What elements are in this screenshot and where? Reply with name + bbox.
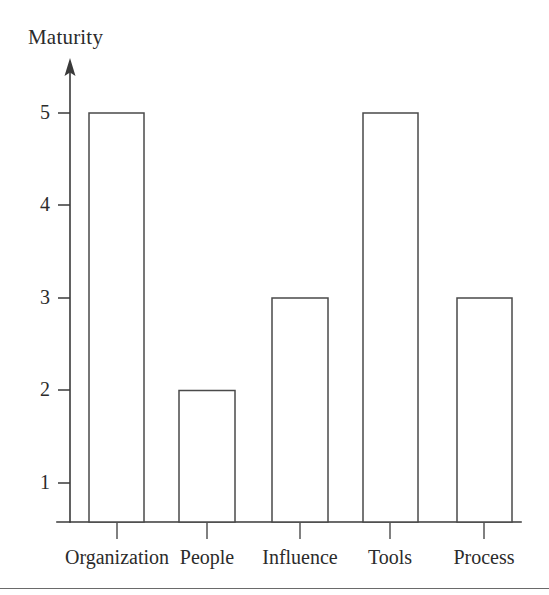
bar-organization <box>89 113 144 522</box>
y-tick-label-4: 4 <box>24 193 50 216</box>
x-tick-label-process: Process <box>453 546 514 569</box>
bar-series <box>89 113 512 522</box>
y-axis-ticks <box>58 113 70 483</box>
y-tick-label-2: 2 <box>24 378 50 401</box>
x-tick-label-tools: Tools <box>368 546 412 569</box>
bar-chart-figure: Maturity 5 4 3 2 1 Organization People I… <box>0 0 549 595</box>
y-tick-label-3: 3 <box>24 286 50 309</box>
bar-process <box>457 298 512 522</box>
bar-influence <box>272 298 328 522</box>
x-tick-label-organization: Organization <box>65 546 169 569</box>
x-axis-ticks <box>117 523 484 539</box>
y-tick-label-1: 1 <box>24 471 50 494</box>
chart-canvas <box>0 0 549 595</box>
page-bottom-rule <box>0 588 549 589</box>
x-tick-label-influence: Influence <box>262 546 338 569</box>
y-axis-title: Maturity <box>28 25 103 50</box>
bar-people <box>179 391 235 523</box>
y-tick-label-5: 5 <box>24 101 50 124</box>
bar-tools <box>363 113 418 522</box>
x-tick-label-people: People <box>180 546 234 569</box>
y-axis <box>65 58 76 522</box>
